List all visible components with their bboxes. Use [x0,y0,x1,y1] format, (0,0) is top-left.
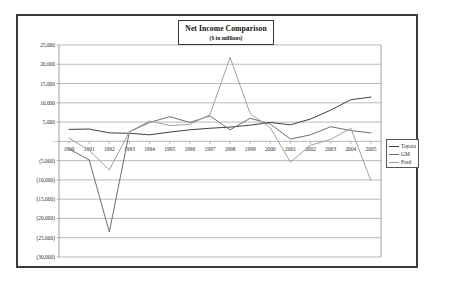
chart-legend: Toyota GM Ford [386,139,419,168]
legend-swatch-toyota [389,146,399,147]
series-line-ford [69,57,371,180]
x-axis-tick-label: 1991 [84,146,95,152]
y-axis-tick-label: (25,000) [37,235,56,242]
y-axis-tick-label: (30,000) [37,254,56,261]
x-axis-tick-label: 1995 [164,146,175,152]
x-axis-tick-label: 1998 [225,146,236,152]
y-axis-tick-label: 5,000 [43,119,55,125]
x-axis-tick-label: 1999 [245,146,256,152]
x-axis-tick-label: 1992 [104,146,115,152]
y-axis-tick-label: (10,000) [37,177,56,184]
legend-item-ford[interactable]: Ford [389,158,416,166]
legend-item-toyota[interactable]: Toyota [389,142,416,150]
x-axis-tick-label: 2004 [345,146,356,152]
y-axis-tick-label: (15,000) [37,196,56,203]
y-axis-tick-label: 15,000 [40,81,55,87]
x-axis-tick-label: 1997 [205,146,216,152]
legend-label-toyota: Toyota [401,143,416,149]
legend-label-ford: Ford [401,159,411,165]
chart-title-box: Net Income Comparison ($ in millions) [178,20,274,45]
legend-item-gm[interactable]: GM [389,150,416,158]
x-axis-tick-label: 1994 [144,146,155,152]
x-axis-tick-label: 2005 [366,146,377,152]
x-axis-tick-label: 2003 [325,146,336,152]
legend-label-gm: GM [401,151,410,157]
y-axis-tick-label: (20,000) [37,215,56,222]
x-axis-tick-label: 2001 [285,146,296,152]
y-axis-tick-label: (5,000) [39,158,55,165]
chart-title: Net Income Comparison [179,24,273,33]
y-axis-tick-label: - [53,138,55,144]
legend-swatch-ford [389,162,399,163]
legend-swatch-gm [389,154,399,155]
x-axis-tick-label: 2000 [265,146,276,152]
y-axis-tick-label: 10,000 [40,100,55,106]
y-axis-tick-label: 25,000 [40,42,55,48]
y-axis-tick-label: 20,000 [40,61,55,67]
x-axis-tick-label: 2002 [305,146,316,152]
x-axis-tick-label: 1996 [184,146,195,152]
chart-subtitle: ($ in millions) [179,35,273,41]
